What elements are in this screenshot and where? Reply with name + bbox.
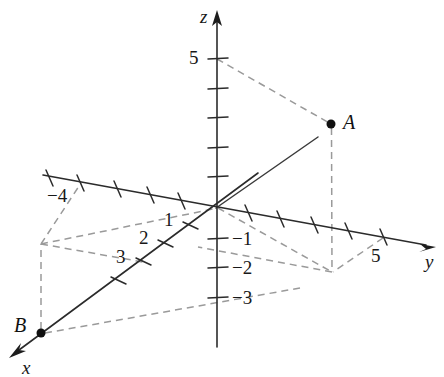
coordinate-system-figure: z y x 5 −4 5 1 2 3 −1 −2 −3 A B (0, 0, 444, 377)
z-tick-label-negative-2: −2 (232, 258, 252, 277)
guide-b-foot-to-origin (41, 209, 213, 244)
point-a-label: A (343, 112, 355, 132)
point-b-dot (37, 329, 46, 338)
y-tick-negative-5 (46, 170, 53, 186)
z-tick-label-negative-3: −3 (232, 288, 252, 307)
z-tick-negative-1 (208, 238, 228, 239)
y-tick-label-negative-4: −4 (47, 186, 67, 205)
guide-a-foot-to-xaxis (198, 247, 332, 272)
z-tick-1 (208, 176, 228, 177)
z-tick-2 (208, 147, 228, 148)
z-tick-4 (208, 88, 228, 89)
z-axis (208, 10, 228, 347)
origin-to-a-ray (216, 137, 318, 208)
y-tick-label-5: 5 (371, 246, 381, 265)
z-tick-label-negative-1: −1 (232, 229, 252, 248)
x-axis-arrow-icon (9, 343, 26, 358)
x-tick-label-1: 1 (164, 210, 174, 229)
y-axis-label: y (425, 252, 433, 271)
point-b-label: B (14, 315, 26, 335)
z-tick-3 (208, 117, 228, 118)
point-b-guide-lines (41, 183, 300, 333)
point-a-guide-lines (198, 59, 383, 272)
z-tick-5 (208, 58, 228, 59)
guide-b-foot-to-xaxis (41, 244, 143, 262)
z-axis-label: z (200, 7, 207, 26)
z-tick-negative-3 (208, 297, 228, 298)
z-tick-label-5: 5 (189, 48, 199, 67)
x-axis-label: x (22, 358, 30, 377)
x-tick-label-2: 2 (139, 228, 149, 247)
point-a-dot (327, 120, 336, 129)
guide-a-vertical-drop (332, 128, 333, 272)
z-tick-negative-2 (208, 267, 228, 268)
guide-a-z-top (217, 59, 331, 124)
guide-b-to-z-negative-three (45, 288, 300, 333)
x-tick-label-3: 3 (116, 247, 126, 266)
